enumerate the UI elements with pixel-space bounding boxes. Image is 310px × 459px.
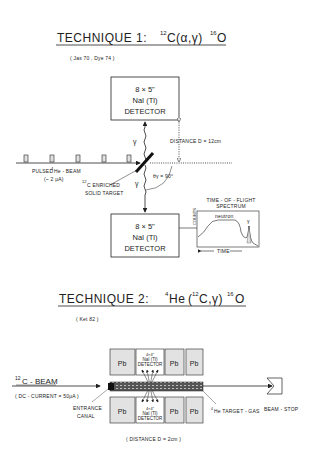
svg-text:C: C [167,31,176,45]
tof-spectrum: TIME - OF - FLIGHT SPECTRUM COUNTS neutr… [192,197,259,254]
technique-2-references: ( Ket 82 ) [76,316,99,322]
svg-text:DETECTOR: DETECTOR [138,362,163,367]
distance-label: DISTANCE D = 12cm [170,138,221,144]
svg-text:BEAM - STOP: BEAM - STOP [264,406,299,412]
svg-text:Pb: Pb [190,360,199,367]
beam-label: C - BEAM [22,377,58,386]
svg-text:neutron: neutron [215,213,233,219]
detector-bottom: 4×4" NaI (Tl) DETECTOR [136,397,164,423]
svg-text:DETECTOR: DETECTOR [138,416,163,421]
svg-text:O: O [235,292,245,306]
svg-text:ENTRANCE: ENTRANCE [73,405,103,411]
svg-text:4: 4 [211,407,213,411]
entrance-canal [108,383,114,390]
canal-leader [92,389,108,402]
svg-text:12: 12 [15,375,21,381]
svg-text:SPECTRUM: SPECTRUM [216,203,246,209]
svg-text:COUNTS: COUNTS [192,208,197,225]
svg-text:Pb: Pb [190,408,199,415]
svg-text:Pb: Pb [118,408,127,415]
technique-2-label: TECHNIQUE 2: [59,292,149,306]
svg-text:SOLID TARGET: SOLID TARGET [85,190,124,196]
beam-current: (~ 2 μA) [44,176,64,182]
svg-text:DETECTOR: DETECTOR [124,244,166,253]
svg-text:He - BEAM: He - BEAM [54,168,81,174]
technique-1-title: TECHNIQUE 1: 12 C (α,γ) 16 O [56,30,227,45]
svg-text:γ: γ [247,218,250,224]
technique-2-title: TECHNIQUE 2: 4 He ( 12 C,γ) 16 O [58,291,246,306]
svg-text:NaI (Tl): NaI (Tl) [133,96,159,105]
svg-text:8 × 5": 8 × 5" [135,85,155,94]
beam-current: ( DC - CURRENT = 50μA ) [15,393,79,399]
svg-text:C,γ): C,γ) [199,292,223,306]
svg-text:8 × 5": 8 × 5" [135,222,155,231]
svg-text:DETECTOR: DETECTOR [124,107,166,116]
svg-text:Pb: Pb [170,408,179,415]
diagram-canvas: TECHNIQUE 1: 12 C (α,γ) 16 O ( Jas 70 , … [0,0,310,459]
svg-text:He TARGET - GAS: He TARGET - GAS [214,408,260,414]
svg-text:He: He [169,292,185,306]
distance-label-2: ( DISTANCE D = 2cm ) [126,436,181,442]
bottom-detector: 8 × 5" NaI (Tl) DETECTOR [111,214,179,257]
technique-1-label: TECHNIQUE 1: [57,31,147,45]
gamma-ray-down [144,165,146,212]
svg-text:Pb: Pb [118,360,127,367]
angle-label: θγ = 90° [153,173,173,179]
svg-text:(α,γ): (α,γ) [176,31,203,45]
svg-text:16: 16 [227,291,234,297]
svg-text:γ: γ [135,180,139,188]
gamma-ray-up [144,122,146,163]
technique-1-references: ( Jas 70 , Dye 74 ) [70,55,115,61]
svg-text:O: O [217,31,227,45]
svg-text:CANAL: CANAL [77,413,95,419]
gas-target-tube [110,382,203,391]
top-detector: 8 × 5" NaI (Tl) DETECTOR [111,77,179,120]
svg-text:TIME: TIME [217,248,230,254]
detector-top: 4×4" NaI (Tl) DETECTOR [136,349,164,375]
svg-text:NaI (Tl): NaI (Tl) [133,233,159,242]
svg-text:Pb: Pb [170,360,179,367]
beam-pulses [24,155,131,162]
gas-leader [203,391,216,404]
svg-text:γ: γ [133,138,137,146]
svg-text:C ENRICHED: C ENRICHED [87,182,120,188]
